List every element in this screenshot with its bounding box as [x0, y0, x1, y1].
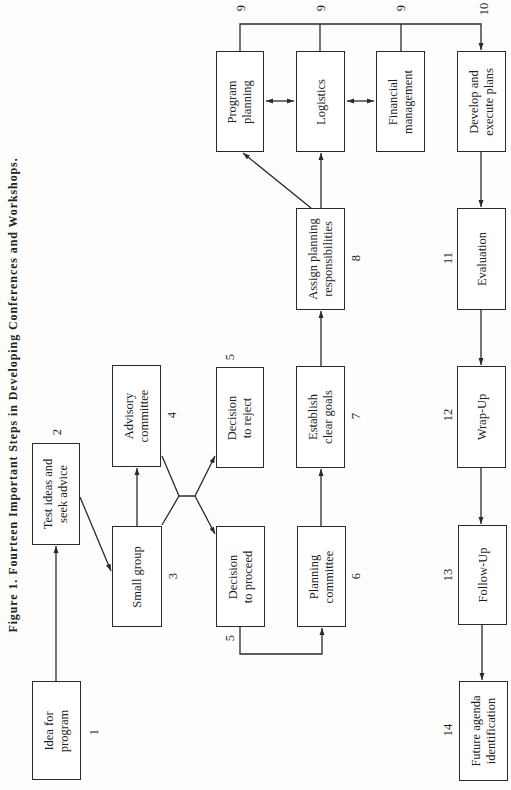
step-box-idea-for-program: Idea for program — [32, 681, 81, 780]
step-label: Decision to reject — [225, 395, 255, 439]
step-number: 10 — [477, 3, 492, 16]
step-number: 14 — [441, 724, 456, 737]
step-box-test-ideas: Test ideas and seek advice — [32, 443, 80, 545]
step-label: Assign planning responsibilities — [306, 218, 336, 300]
step-label: Follow-Up — [475, 548, 490, 603]
step-box-program-planning: Program planning — [216, 51, 264, 152]
step-number: 8 — [349, 255, 364, 261]
step-number: 1 — [87, 729, 102, 735]
step-label: Wrap-Up — [474, 394, 489, 441]
arrow-split-to-reject — [162, 456, 215, 525]
arrow-9-to-10 — [240, 24, 481, 51]
step-box-financial-management: Financial management — [376, 51, 425, 152]
step-box-decision-to-reject: Decision to reject — [216, 367, 264, 468]
step-label: Logistics — [313, 79, 328, 125]
step-box-small-group: Small group — [112, 526, 162, 627]
step-box-future-agenda-identification: Future agenda identification — [459, 681, 508, 781]
step-number: 2 — [50, 429, 65, 435]
step-number: 5 — [223, 354, 238, 360]
step-number: 5 — [223, 635, 238, 641]
step-label: Planning committee — [307, 550, 337, 603]
step-label: Small group — [130, 546, 145, 607]
step-label: Advisory committee — [122, 390, 152, 443]
step-box-decision-to-proceed: Decision to proceed — [216, 526, 265, 627]
step-box-establish-clear-goals: Establish clear goals — [296, 366, 345, 468]
step-box-advisory-committee: Advisory committee — [112, 365, 161, 467]
flowchart-figure: Figure 1. Fourteen Important Steps in De… — [0, 0, 511, 790]
step-box-logistics: Logistics — [296, 51, 345, 152]
step-number: 6 — [349, 573, 364, 579]
arrow-split-to-proceed — [162, 456, 215, 534]
step-box-wrap-up: Wrap-Up — [457, 366, 506, 468]
step-number: 4 — [165, 412, 180, 418]
arrow-2-to-3 — [80, 497, 111, 571]
step-label: Evaluation — [474, 232, 489, 286]
step-label: Financial management — [386, 70, 416, 134]
arrow-5-to-6 — [240, 627, 322, 654]
step-number: 12 — [441, 409, 456, 422]
step-label: Establish clear goals — [306, 390, 336, 444]
step-label: Decision to proceed — [226, 550, 256, 602]
step-label: Idea for program — [42, 709, 72, 751]
step-label: Test ideas and seek advice — [41, 459, 71, 530]
step-box-follow-up: Follow-Up — [458, 525, 507, 625]
step-label: Future agenda identification — [469, 695, 499, 766]
step-box-assign-planning-responsibilities: Assign planning responsibilities — [296, 208, 345, 310]
step-number: 9 — [394, 5, 409, 11]
step-number: 11 — [441, 252, 456, 264]
step-label: Program planning — [225, 80, 255, 124]
step-number: 13 — [441, 569, 456, 582]
step-number: 9 — [234, 5, 249, 11]
step-number: 7 — [349, 413, 364, 419]
step-number: 3 — [166, 573, 181, 579]
step-box-develop-and-execute-plans: Develop and execute plans — [457, 51, 506, 152]
step-label: Develop and execute plans — [467, 68, 497, 136]
step-number: 9 — [314, 5, 329, 11]
step-box-evaluation: Evaluation — [457, 208, 506, 310]
step-box-planning-committee: Planning committee — [297, 526, 346, 627]
arrow-8-to-program-planning — [243, 153, 311, 208]
